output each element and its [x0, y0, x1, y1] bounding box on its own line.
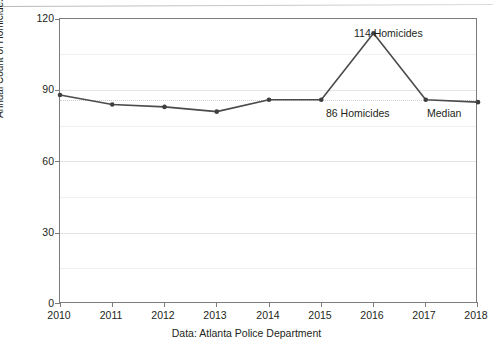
data-point-2017	[423, 97, 428, 102]
y-tick-label-30: 30	[14, 227, 54, 238]
x-tick-label-2015: 2015	[290, 310, 350, 321]
x-tick-label-2013: 2013	[185, 310, 245, 321]
x-tick-label-2011: 2011	[81, 310, 141, 321]
annotation-point-2017: 86 Homicides	[326, 107, 390, 119]
data-point-2012	[162, 105, 167, 110]
plot-inner: 114 Homicides 86 Homicides Median	[60, 19, 476, 302]
data-point-2015	[319, 97, 324, 102]
data-point-2010	[58, 93, 63, 98]
series-markers	[58, 31, 481, 114]
x-tick-label-2012: 2012	[133, 310, 193, 321]
annotation-peak-2016: 114 Homicides	[354, 27, 423, 39]
x-tick-label-2014: 2014	[238, 310, 298, 321]
chart-caption: Data: Atlanta Police Department	[0, 327, 493, 339]
y-tick-label-90: 90	[14, 84, 54, 95]
data-point-2011	[110, 102, 115, 107]
annotation-median-2018: Median	[427, 107, 461, 119]
y-axis-title: Annual Count of Homicides	[0, 0, 5, 118]
x-tick-label-2016: 2016	[342, 310, 402, 321]
plot-area: 114 Homicides 86 Homicides Median	[59, 18, 477, 303]
homicides-series	[60, 19, 478, 304]
x-tick-label-2017: 2017	[394, 310, 454, 321]
data-point-2018	[476, 100, 481, 105]
y-tick-label-120: 120	[14, 13, 54, 24]
y-tick-label-60: 60	[14, 156, 54, 167]
x-tick-label-2018: 2018	[446, 310, 493, 321]
data-point-2013	[214, 109, 219, 114]
page-top-rule	[0, 4, 493, 7]
y-tick-label-0: 0	[14, 298, 54, 309]
data-point-2014	[267, 97, 272, 102]
homicides-line-chart-figure: Annual Count of Homicides 120 90 60 30 0…	[0, 0, 493, 352]
x-tick-label-2010: 2010	[29, 310, 89, 321]
